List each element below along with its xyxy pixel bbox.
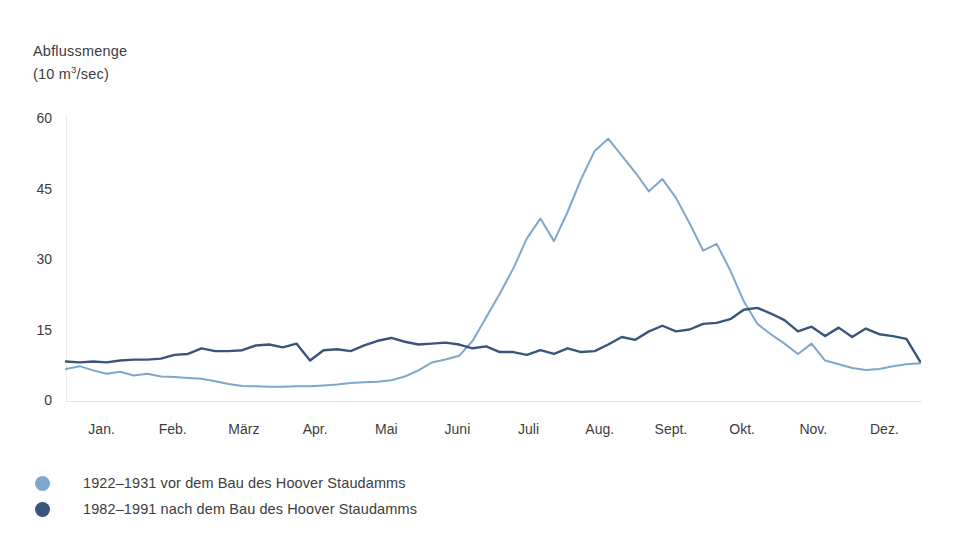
legend-label-after-dam: 1982–1991 nach dem Bau des Hoover Stauda… [83, 501, 417, 517]
x-tick-label: Feb. [159, 421, 187, 437]
x-axis-line [66, 401, 922, 402]
series-lines [66, 118, 920, 400]
x-tick-label: Juni [445, 421, 471, 437]
y-tick-label: 15 [36, 322, 52, 338]
y-tick-label: 60 [36, 110, 52, 126]
x-tick-label: März [228, 421, 259, 437]
chart-legend: 1922–1931 vor dem Bau des Hoover Staudam… [33, 470, 593, 522]
x-tick-label: Okt. [729, 421, 755, 437]
x-tick-label: Juli [518, 421, 539, 437]
legend-label-before-dam: 1922–1931 vor dem Bau des Hoover Staudam… [83, 475, 406, 491]
y-tick-label: 45 [36, 181, 52, 197]
legend-color-dot-dark [35, 502, 50, 517]
x-tick-label: Sept. [655, 421, 688, 437]
x-tick-label: Aug. [585, 421, 614, 437]
series-line-after-dam [66, 308, 920, 363]
plot-area: 015304560 [66, 118, 920, 400]
chart-figure: Abflussmenge (10 m3/sec) 015304560 Jan.F… [0, 0, 953, 551]
y-axis-title-line1: Abflussmenge [33, 43, 127, 59]
x-tick-label: Apr. [303, 421, 328, 437]
legend-color-dot-light [35, 476, 50, 491]
x-tick-label: Mai [375, 421, 398, 437]
y-axis-title: Abflussmenge (10 m3/sec) [33, 40, 127, 87]
x-tick-label: Dez. [870, 421, 899, 437]
x-tick-label: Nov. [799, 421, 827, 437]
y-axis-unit-pre: (10 m [33, 66, 71, 82]
y-axis-unit-post: /sec) [77, 66, 109, 82]
legend-item-before-dam: 1922–1931 vor dem Bau des Hoover Staudam… [33, 470, 593, 496]
y-tick-label: 0 [44, 392, 52, 408]
y-tick-label: 30 [36, 251, 52, 267]
legend-item-after-dam: 1982–1991 nach dem Bau des Hoover Stauda… [33, 496, 593, 522]
x-tick-label: Jan. [88, 421, 114, 437]
y-axis-unit: (10 m3/sec) [33, 63, 127, 86]
